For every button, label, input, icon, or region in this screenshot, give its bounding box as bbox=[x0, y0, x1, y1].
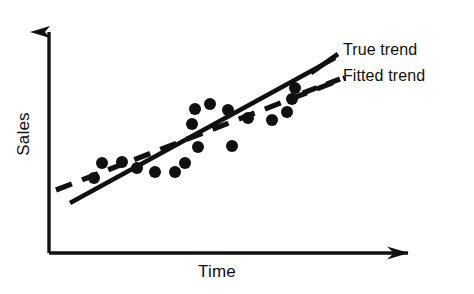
scatter-point bbox=[149, 166, 161, 178]
legend-label-true-trend: True trend bbox=[343, 41, 417, 59]
scatter-point bbox=[281, 106, 293, 118]
scatter-point bbox=[88, 172, 100, 184]
scatter-point bbox=[169, 166, 181, 178]
scatter-point bbox=[96, 157, 108, 169]
legend-true-trend-swatch bbox=[311, 54, 338, 73]
scatter-point bbox=[186, 118, 198, 130]
scatter-point bbox=[116, 156, 128, 168]
true-trend-line bbox=[70, 58, 335, 203]
y-axis-label: Sales bbox=[14, 112, 34, 156]
scatter-point bbox=[226, 140, 238, 152]
scatter-point bbox=[192, 141, 204, 153]
scatter-point bbox=[242, 112, 254, 124]
scatter-point bbox=[189, 103, 201, 115]
scatter-point bbox=[266, 114, 278, 126]
scatter-plot-figure: Sales Time True trend Fitted trend bbox=[0, 0, 474, 294]
scatter-point bbox=[179, 157, 191, 169]
scatter-point bbox=[286, 93, 298, 105]
x-axis-label: Time bbox=[198, 262, 236, 282]
legend-label-fitted-trend: Fitted trend bbox=[343, 67, 425, 85]
scatter-point bbox=[204, 98, 216, 110]
scatter-point bbox=[131, 162, 143, 174]
scatter-point bbox=[289, 82, 301, 94]
scatter-point bbox=[222, 104, 234, 116]
